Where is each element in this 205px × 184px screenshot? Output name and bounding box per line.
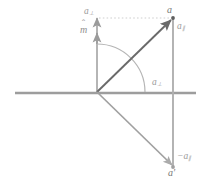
label-component-perpendicular-axis: a⊥ <box>152 78 162 88</box>
label-m-base: m <box>80 24 87 35</box>
label-vector-a: a <box>167 5 172 15</box>
point-a-marker <box>171 16 175 20</box>
label-unit-normal-m-hat: m ̂ <box>80 25 87 35</box>
label-vector-a-prime: a′ <box>168 168 175 178</box>
vector-reflection-figure: a a∥ a⊥ m ̂ a⊥ −a∥ a′ <box>0 0 205 184</box>
label-prime-mark: ′ <box>173 167 175 178</box>
figure-canvas <box>0 0 205 184</box>
label-component-perpendicular-top: a⊥ <box>84 7 94 17</box>
label-component-parallel: a∥ <box>177 22 185 32</box>
vector-a-prime-line <box>97 92 172 165</box>
label-perp-axis-subscript: ⊥ <box>157 81 162 87</box>
label-parallel-subscript: ∥ <box>182 25 185 31</box>
label-component-parallel-negative: −a∥ <box>177 152 191 162</box>
label-neg-parallel-subscript: ∥ <box>188 155 191 161</box>
label-perp-top-subscript: ⊥ <box>89 10 94 16</box>
